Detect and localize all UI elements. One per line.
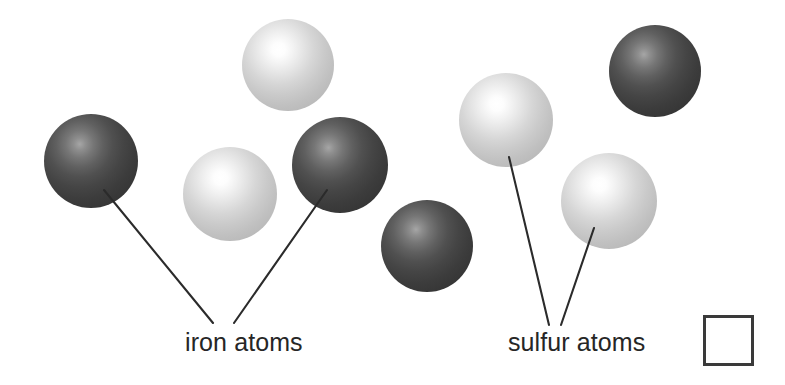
atom-iron-4: [609, 25, 701, 117]
label-sulfur-atoms: sulfur atoms: [508, 330, 645, 355]
atom-iron-3: [381, 200, 473, 292]
atom-iron-1: [44, 114, 138, 208]
atom-sulfur-2: [183, 147, 277, 241]
atom-sulfur-4: [561, 153, 657, 249]
label-iron-atoms: iron atoms: [185, 330, 303, 355]
answer-checkbox[interactable]: [703, 315, 754, 366]
atom-sulfur-3: [459, 73, 553, 167]
atom-sulfur-1: [242, 19, 334, 111]
diagram-canvas: iron atoms sulfur atoms: [0, 0, 785, 385]
sulfur-leader-left-line: [509, 157, 549, 325]
atom-iron-2: [292, 117, 388, 213]
